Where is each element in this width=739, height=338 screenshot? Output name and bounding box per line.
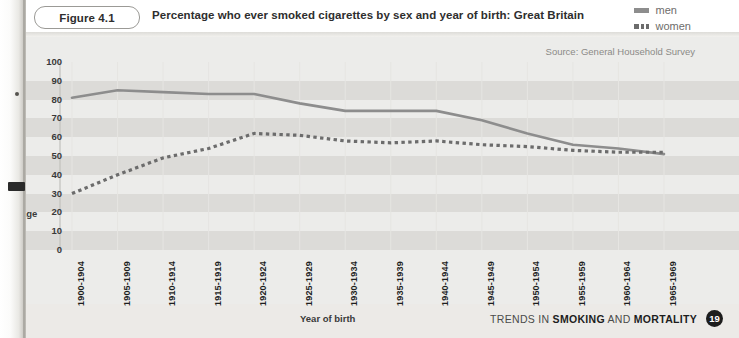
x-axis-tick-1945-1949: 1945-1949: [486, 261, 496, 306]
y-axis-title: Percentage: [0, 208, 37, 219]
legend-swatch-solid-icon: [634, 8, 649, 13]
x-axis-tick-1915-1919: 1915-1919: [213, 261, 223, 306]
chart-series-men: [72, 90, 664, 154]
x-axis-title: Year of birth: [300, 313, 355, 324]
x-axis-tick-1955-1959: 1955-1959: [577, 261, 587, 306]
legend-label-women: women: [656, 20, 691, 32]
page-edge-speck: [15, 92, 19, 96]
y-axis-tick-90: 90: [36, 75, 62, 86]
legend-label-men: men: [656, 4, 677, 16]
legend-item-men: men: [634, 3, 691, 17]
x-axis-tick-1900-1904: 1900-1904: [76, 261, 86, 306]
y-axis-tick-60: 60: [36, 131, 62, 142]
page-edge-line: [23, 0, 25, 338]
legend-item-women: women: [634, 19, 691, 33]
source-note: Source: General Household Survey: [546, 46, 695, 57]
x-axis-tick-1950-1954: 1950-1954: [531, 261, 541, 306]
figure-number-badge: Figure 4.1: [34, 6, 140, 29]
x-axis-tick-1920-1924: 1920-1924: [258, 261, 268, 306]
x-axis-tick-1910-1914: 1910-1914: [167, 261, 177, 306]
y-axis-tick-10: 10: [36, 225, 62, 236]
x-axis-tick-1930-1934: 1930-1934: [349, 261, 359, 306]
figure-header: Figure 4.1 Percentage who ever smoked ci…: [0, 0, 739, 32]
header-shadow: [0, 32, 739, 37]
footer-text: TRENDS IN SMOKING AND MORTALITY: [490, 313, 697, 325]
y-axis-tick-20: 20: [36, 206, 62, 217]
x-axis-tick-1965-1969: 1965-1969: [668, 261, 678, 306]
legend-swatch-dashed-icon: [634, 24, 649, 29]
chart-legend: men women: [634, 3, 691, 35]
y-axis-tick-80: 80: [36, 94, 62, 105]
y-axis-tick-40: 40: [36, 169, 62, 180]
y-axis-tick-50: 50: [36, 150, 62, 161]
x-axis-tick-1940-1944: 1940-1944: [440, 261, 450, 306]
y-axis-tick-labels: 1009080706050403020100: [36, 0, 62, 267]
page-edge-mark: [8, 182, 25, 191]
page-footer: TRENDS IN SMOKING AND MORTALITY 19: [490, 310, 723, 327]
x-axis-tick-1960-1964: 1960-1964: [622, 261, 632, 306]
x-axis-tick-1925-1929: 1925-1929: [304, 261, 314, 306]
y-axis-tick-0: 0: [36, 244, 62, 255]
x-axis-tick-1905-1909: 1905-1909: [122, 261, 132, 306]
y-axis-tick-30: 30: [36, 188, 62, 199]
x-axis-tick-1935-1939: 1935-1939: [395, 261, 405, 306]
y-axis-tick-100: 100: [36, 56, 62, 67]
page-number-badge: 19: [706, 310, 723, 327]
chart-series-women: [72, 133, 664, 193]
page-title: Percentage who ever smoked cigarettes by…: [152, 9, 584, 21]
y-axis-tick-70: 70: [36, 112, 62, 123]
